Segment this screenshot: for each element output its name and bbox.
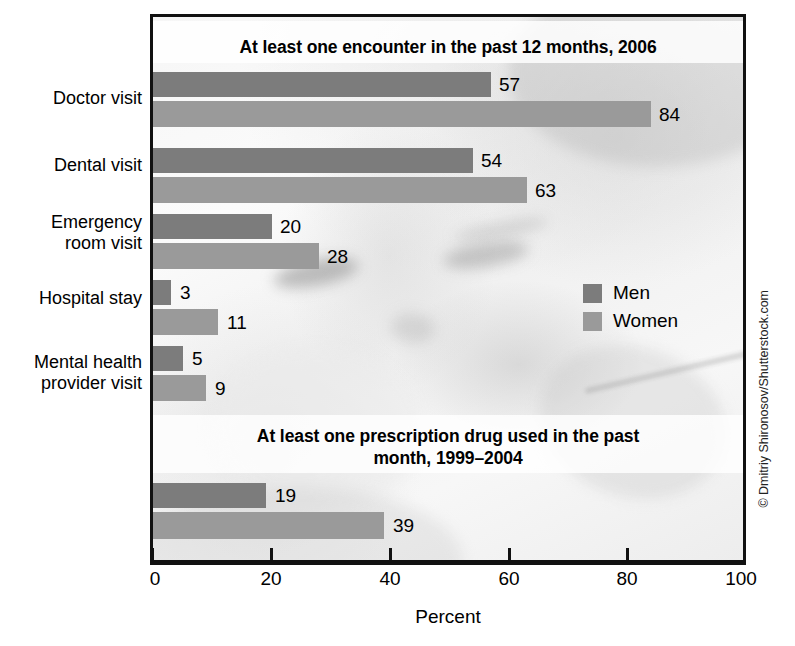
value-label-hospital-stay-women: 11 xyxy=(227,312,247,334)
legend-item-men: Men xyxy=(583,279,733,307)
x-axis-tick-label-80: 80 xyxy=(616,568,637,590)
photo-eyebrow xyxy=(453,215,550,244)
x-axis-tick-label-100: 100 xyxy=(725,568,757,590)
bar-emergency-room-visit-men xyxy=(153,214,272,239)
bar-dental-visit-men xyxy=(153,148,473,173)
bar-hospital-stay-women xyxy=(153,309,218,335)
category-label-line: Doctor visit xyxy=(0,88,142,109)
chart-title-bottom: At least one prescription drug used in t… xyxy=(153,426,743,470)
image-credit: © Dmitriy Shironosov/Shutterstock.com xyxy=(757,290,771,508)
x-axis-tick-100 xyxy=(743,548,746,562)
bar-doctor-visit-women xyxy=(153,101,651,127)
bar-prescription-drug-women xyxy=(153,512,384,539)
x-axis-tick-60 xyxy=(508,548,511,562)
x-axis-tick-0 xyxy=(151,548,154,562)
x-axis-tick-20 xyxy=(270,548,273,562)
value-label-doctor-visit-women: 84 xyxy=(659,104,680,126)
photo-eye-right xyxy=(442,236,531,273)
category-label-line: Emergency xyxy=(0,212,142,233)
value-label-hospital-stay-men: 3 xyxy=(180,282,191,304)
bar-dental-visit-women xyxy=(153,177,527,203)
value-label-doctor-visit-men: 57 xyxy=(499,74,520,96)
legend-swatch-women-icon xyxy=(583,312,602,331)
value-label-prescription-drug-women: 39 xyxy=(393,515,414,537)
value-label-dental-visit-women: 63 xyxy=(535,180,556,202)
figure-bar-chart: Doctor visit Dental visit Emergency room… xyxy=(0,0,795,646)
category-label-mental-health-provider-visit: Mental health provider visit xyxy=(0,352,142,393)
legend: Men Women xyxy=(583,279,733,335)
bar-mental-health-provider-visit-women xyxy=(153,375,206,401)
legend-label-women: Women xyxy=(613,310,678,332)
category-label-hospital-stay: Hospital stay xyxy=(0,288,142,309)
bar-emergency-room-visit-women xyxy=(153,243,319,269)
photo-nose xyxy=(390,311,437,345)
legend-item-women: Women xyxy=(583,307,733,335)
category-label-line: provider visit xyxy=(0,373,142,394)
category-label-doctor-visit: Doctor visit xyxy=(0,88,142,109)
chart-title-top: At least one encounter in the past 12 mo… xyxy=(153,37,743,59)
category-label-line: Mental health xyxy=(0,352,142,373)
bar-doctor-visit-men xyxy=(153,72,491,97)
x-axis-tick-label-60: 60 xyxy=(498,568,519,590)
x-axis-tick-label-40: 40 xyxy=(379,568,400,590)
x-axis-line xyxy=(150,561,746,565)
category-label-line: Dental visit xyxy=(0,155,142,176)
value-label-prescription-drug-men: 19 xyxy=(275,485,296,507)
value-label-mental-health-women: 9 xyxy=(215,378,226,400)
chart-title-top-text: At least one encounter in the past 12 mo… xyxy=(239,37,656,57)
x-axis-tick-40 xyxy=(389,548,392,562)
value-label-emergency-room-visit-women: 28 xyxy=(327,246,348,268)
plot-area: At least one encounter in the past 12 mo… xyxy=(150,14,746,563)
value-label-dental-visit-men: 54 xyxy=(481,150,502,172)
x-axis-title: Percent xyxy=(150,606,746,628)
bar-prescription-drug-men xyxy=(153,483,266,508)
category-label-emergency-room-visit: Emergency room visit xyxy=(0,212,142,253)
category-label-line: room visit xyxy=(0,233,142,254)
legend-swatch-men-icon xyxy=(583,284,602,303)
x-axis-tick-label-20: 20 xyxy=(260,568,281,590)
bar-hospital-stay-men xyxy=(153,280,171,305)
x-axis-tick-label-0: 0 xyxy=(150,568,161,590)
category-label-dental-visit: Dental visit xyxy=(0,155,142,176)
category-label-line: Hospital stay xyxy=(0,288,142,309)
value-label-mental-health-men: 5 xyxy=(192,348,203,370)
value-label-emergency-room-visit-men: 20 xyxy=(280,216,301,238)
category-axis-labels: Doctor visit Dental visit Emergency room… xyxy=(0,0,142,646)
legend-label-men: Men xyxy=(613,282,650,304)
x-axis-tick-80 xyxy=(626,548,629,562)
bar-mental-health-provider-visit-men xyxy=(153,346,183,371)
chart-title-bottom-line1: At least one prescription drug used in t… xyxy=(153,426,743,448)
chart-title-bottom-line2: month, 1999–2004 xyxy=(153,448,743,470)
